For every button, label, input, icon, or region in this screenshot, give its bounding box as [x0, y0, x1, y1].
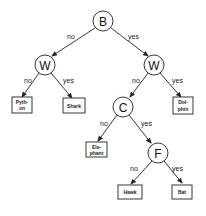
leaf-dolphin: Dol- phin — [173, 97, 193, 114]
leaf-python-line2: on — [19, 105, 25, 111]
edge-label-wr-no: no — [132, 77, 140, 84]
leaf-elephant: Ele- phant — [86, 142, 107, 157]
edge-label-c-yes: yes — [141, 120, 152, 128]
node-b: B — [93, 11, 113, 31]
leaf-bat-line1: Bat — [178, 189, 186, 195]
leaf-hawk-line1: Hawk — [123, 189, 136, 195]
node-w-left-label: W — [39, 59, 51, 73]
node-f-label: F — [154, 147, 161, 161]
leaf-shark-line1: Shark — [67, 103, 81, 109]
leaf-bat: Bat — [172, 185, 192, 199]
edge-label-wl-no: no — [24, 77, 32, 84]
leaf-elephant-line2: phant — [90, 150, 104, 156]
edge-label-f-yes: yes — [172, 165, 183, 173]
node-w-right: W — [144, 55, 164, 75]
node-f: F — [148, 143, 168, 163]
node-c-label: C — [119, 101, 128, 115]
leaf-python: Pyth- on — [12, 97, 32, 113]
edge-label-wr-yes: yes — [172, 77, 183, 85]
decision-tree-diagram: no yes no yes no yes no yes no yes B W W… — [0, 0, 206, 216]
leaf-shark: Shark — [63, 98, 85, 113]
edge-label-f-no: no — [130, 165, 138, 172]
leaf-hawk: Hawk — [118, 185, 142, 199]
node-c: C — [113, 97, 133, 117]
leaf-dolphin-line1: Dol- — [178, 99, 188, 105]
edge-label-wl-yes: yes — [63, 77, 74, 85]
node-w-left: W — [35, 55, 55, 75]
edge-label-root-yes: yes — [128, 33, 139, 41]
node-w-right-label: W — [148, 59, 160, 73]
node-b-label: B — [99, 15, 107, 29]
edge-c-no — [98, 115, 117, 141]
leaf-dolphin-line2: phin — [178, 106, 189, 112]
edge-label-c-no: no — [100, 120, 108, 127]
edge-label-root-no: no — [67, 33, 75, 40]
